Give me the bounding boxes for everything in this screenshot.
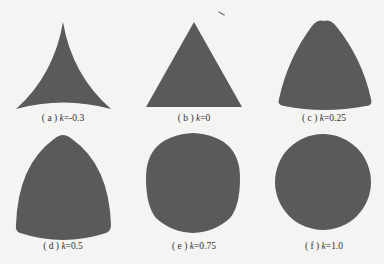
caption-c-label: ( c ) <box>302 113 317 123</box>
shape-e-near-circle <box>146 133 240 233</box>
caption-e-value: =0.75 <box>194 241 216 251</box>
caption-f: ( f ) k=1.0 <box>264 241 384 251</box>
shape-d-rounded-triangle <box>16 135 111 240</box>
figure: ( a ) k=-0.3 ( b ) k=0 ( c ) k=0.25 ( d … <box>0 0 384 264</box>
shapes-canvas <box>0 0 384 264</box>
caption-a: ( a ) k=-0.3 <box>3 113 123 123</box>
shape-f-circle <box>275 134 371 230</box>
caption-c-value: =0.25 <box>324 113 346 123</box>
caption-b-label: ( b ) <box>178 113 194 123</box>
caption-d: ( d ) k=0.5 <box>3 241 123 251</box>
shape-c-convex-triangle <box>279 21 372 110</box>
caption-d-value: =0.5 <box>66 241 83 251</box>
shape-b-triangle <box>146 22 242 107</box>
caption-a-value: =-0.3 <box>64 113 84 123</box>
caption-b: ( b ) k=0 <box>134 113 254 123</box>
caption-f-value: =1.0 <box>326 241 343 251</box>
caption-c: ( c ) k=0.25 <box>264 113 384 123</box>
shape-a-concave-triangle <box>16 22 111 109</box>
caption-e: ( e ) k=0.75 <box>134 241 254 251</box>
caption-e-label: ( e ) <box>172 241 187 251</box>
caption-f-label: ( f ) <box>305 241 319 251</box>
caption-b-value: =0 <box>200 113 210 123</box>
caption-d-label: ( d ) <box>43 241 59 251</box>
caption-a-label: ( a ) <box>42 113 57 123</box>
